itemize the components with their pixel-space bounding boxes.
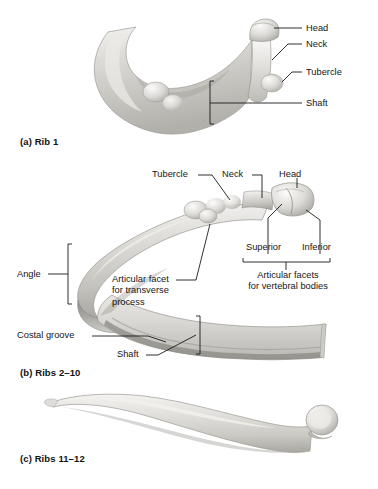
label-inferior: Inferior	[302, 242, 331, 253]
floating-rib-bone	[44, 394, 338, 453]
label-head-b: Head	[279, 169, 301, 180]
rib-anatomy-figure: Head Neck Tubercle Shaft (a) Rib 1	[0, 0, 378, 489]
label-articular-facet-transverse-process: Articular facet for transverse process	[112, 274, 182, 308]
label-costal-groove: Costal groove	[17, 330, 74, 341]
leader-inferior-d	[306, 210, 320, 220]
label-neck-b: Neck	[222, 169, 243, 180]
leader-facet-tp-d	[196, 224, 210, 280]
label-angle: Angle	[17, 269, 41, 280]
facet-tp-line3: process	[112, 297, 145, 307]
caption-panel-a: (a) Rib 1	[20, 136, 58, 147]
panel-ribs-11-12: (c) Ribs 11–12	[0, 390, 378, 489]
label-superior: Superior	[246, 242, 281, 253]
label-tubercle: Tubercle	[306, 67, 342, 78]
angle-bracket	[48, 244, 72, 304]
facets-vb-line2: for vertebral bodies	[248, 281, 328, 291]
caption-panel-c: (c) Ribs 11–12	[20, 453, 85, 464]
leader-neck-diagonal	[272, 44, 288, 60]
label-articular-facets-vertebral-bodies: Articular facets for vertebral bodies	[238, 270, 338, 293]
panel-rib-1: Head Neck Tubercle Shaft (a) Rib 1	[0, 0, 378, 158]
label-neck: Neck	[306, 39, 327, 50]
label-shaft-b: Shaft	[117, 349, 139, 360]
rib-1-bone	[94, 19, 283, 134]
panel-ribs-2-10: Tubercle Neck Head Superior Inferior Art…	[0, 158, 378, 390]
label-head: Head	[306, 23, 328, 34]
label-tubercle-b: Tubercle	[152, 169, 188, 180]
facets-vb-line1: Articular facets	[257, 270, 318, 280]
facet-tp-line2: for transverse	[112, 285, 169, 295]
leader-tubercle-diagonal	[282, 72, 292, 82]
caption-panel-b: (b) Ribs 2–10	[20, 367, 80, 378]
label-shaft: Shaft	[306, 98, 328, 109]
floating-rib-illustration	[0, 390, 378, 489]
vertebral-facets-bracket	[243, 258, 330, 270]
facet-tp-line1: Articular facet	[112, 274, 169, 284]
